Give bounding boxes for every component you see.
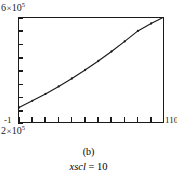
y-max-exponent: 5 xyxy=(22,1,25,8)
y-tick xyxy=(18,84,23,86)
x-axis-min-label: -1 xyxy=(4,115,12,126)
y-tick xyxy=(18,30,23,32)
figure-caption: (b) xscl = 10 xyxy=(0,145,177,175)
caption-letter: (b) xyxy=(0,145,177,159)
y-tick xyxy=(18,17,23,19)
x-tick xyxy=(18,117,20,122)
caption-note: xscl = 10 xyxy=(0,159,177,175)
y-axis-ticks xyxy=(18,17,19,123)
y-axis-min-label: 2×105 xyxy=(1,125,25,137)
y-tick xyxy=(18,97,23,99)
x-tick xyxy=(110,117,112,122)
x-axis-max-label: 110 xyxy=(165,115,177,126)
x-axis-ticks xyxy=(18,122,164,123)
y-tick xyxy=(18,110,23,112)
y-min-exponent: 5 xyxy=(22,124,25,131)
y-axis-max-label: 6×105 xyxy=(1,2,25,14)
x-tick xyxy=(58,117,60,122)
y-max-base: 10 xyxy=(12,2,22,13)
y-tick xyxy=(18,57,23,59)
x-tick xyxy=(124,117,126,122)
y-tick xyxy=(18,44,23,46)
y-tick xyxy=(18,70,23,72)
data-curve xyxy=(19,18,163,108)
x-tick xyxy=(71,117,73,122)
plot-curve-area xyxy=(18,17,164,123)
x-tick xyxy=(84,117,86,122)
y-min-base: 10 xyxy=(12,125,22,136)
x-tick xyxy=(97,117,99,122)
x-tick xyxy=(150,117,152,122)
x-tick xyxy=(137,117,139,122)
figure-panel-b: 6×105 2×105 -1 110 (b) xscl = 10 xyxy=(0,0,177,181)
x-tick xyxy=(44,117,46,122)
caption-value: = 10 xyxy=(86,161,108,172)
x-tick xyxy=(31,117,33,122)
caption-variable: xscl xyxy=(70,161,86,172)
x-tick xyxy=(163,117,165,122)
